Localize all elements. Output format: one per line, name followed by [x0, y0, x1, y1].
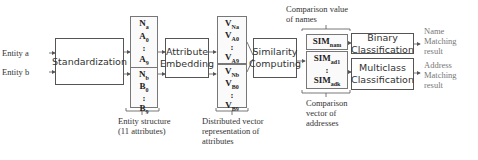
- comparison-vector-label: Comparisonvector ofaddresses: [306, 98, 348, 129]
- label-line: Name: [424, 26, 457, 36]
- label-line: of names: [286, 14, 348, 24]
- label-line: representation of: [202, 126, 264, 136]
- label-line: addresses: [306, 118, 348, 128]
- sc-line1: Similarity: [253, 46, 298, 57]
- symbol: :: [326, 65, 329, 75]
- symbol: :: [231, 42, 234, 52]
- label-line: Comparison value: [286, 4, 348, 14]
- bc-line2: Classification: [351, 44, 414, 55]
- binary-classification-box: BinaryClassification: [351, 33, 414, 54]
- entity-structure-label: Entity structure(11 attributes): [118, 116, 171, 136]
- symbol: VNb: [225, 66, 239, 78]
- label-line: Matching: [424, 36, 457, 46]
- symbol: A9: [139, 54, 149, 66]
- symbol: Na: [139, 18, 149, 30]
- attribute-embedding-box: AttributeEmbedding: [165, 38, 209, 78]
- label-line: vector of: [306, 108, 348, 118]
- ae-line1: Attribute: [166, 46, 208, 57]
- entity-a-label: Entity a: [2, 48, 29, 58]
- similarity-computing-box: SimilarityComputing: [253, 38, 297, 78]
- distributed-vector-label: Distributed vectorrepresentation ofattri…: [202, 116, 264, 147]
- mc-line2: Classification: [351, 74, 414, 85]
- label-line: Matching: [424, 70, 457, 80]
- sc-line2: Computing: [249, 58, 301, 69]
- bc-line1: Binary: [367, 32, 398, 43]
- label-line: attributes: [202, 136, 264, 146]
- symbol: :: [143, 43, 146, 53]
- symbol: VA9: [225, 52, 239, 64]
- symbol: SIMnam: [313, 36, 341, 48]
- address-result-label: AddressMatchingresult: [424, 60, 457, 91]
- entity-matching-diagram: Entity a Entity b Standardization NaA0:A…: [0, 0, 478, 160]
- symbol: Nb: [139, 69, 149, 81]
- symbol: :: [231, 90, 234, 100]
- symbol: VNa: [225, 18, 239, 30]
- symbol: B9: [139, 103, 148, 115]
- symbol: VB9: [225, 100, 239, 112]
- multiclass-classification-box: MulticlassClassification: [351, 58, 414, 90]
- label-line: (11 attributes): [118, 126, 171, 136]
- symbol: B0: [139, 81, 148, 93]
- label-line: Comparison: [306, 98, 348, 108]
- label-line: result: [424, 80, 457, 90]
- label-line: Entity structure: [118, 116, 171, 126]
- label-line: Address: [424, 60, 457, 70]
- vectors-b: VNbVB0:VB9: [217, 64, 247, 108]
- name-result-label: NameMatchingresult: [424, 26, 457, 57]
- label-line: Distributed vector: [202, 116, 264, 126]
- entity-b-label: Entity b: [2, 67, 29, 77]
- symbol: VA0: [225, 30, 239, 42]
- sim-name: SIMnam: [306, 34, 348, 50]
- mc-line1: Multiclass: [359, 62, 406, 73]
- symbol: VB0: [225, 78, 239, 90]
- comparison-value-label: Comparison valueof names: [286, 4, 348, 24]
- symbol: SIMad1: [314, 53, 340, 65]
- standardization-text: Standardization: [52, 56, 127, 68]
- vectors-a: VNaVA0:VA9: [217, 16, 247, 64]
- sim-addresses: SIMad1:SIMadk: [306, 51, 348, 89]
- entity-b-attributes: NbB0:B9: [130, 67, 158, 108]
- label-line: result: [424, 46, 457, 56]
- symbol: A0: [139, 31, 149, 43]
- symbol: SIMadk: [314, 75, 341, 87]
- entity-a-attributes: NaA0:A9: [130, 16, 158, 68]
- standardization-box: Standardization: [55, 38, 124, 85]
- ae-line2: Embedding: [160, 58, 214, 69]
- symbol: :: [143, 93, 146, 103]
